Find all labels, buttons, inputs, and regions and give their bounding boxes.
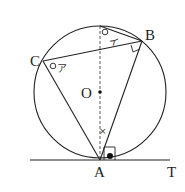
angle-circle-mark-c — [50, 63, 56, 69]
label-o: O — [81, 85, 92, 101]
circle-tangent-diagram: O C B A T ア イ × — [0, 0, 185, 192]
angle-label-a: ア — [57, 63, 67, 74]
segment-ab — [100, 41, 142, 160]
label-a: A — [94, 164, 105, 180]
label-c: C — [30, 53, 40, 69]
segment-ac — [43, 61, 100, 160]
label-t: T — [167, 164, 176, 180]
angle-dot-mark — [107, 153, 113, 159]
segment-db — [100, 26, 142, 41]
label-b: B — [145, 27, 155, 43]
angle-label-i: イ — [107, 35, 120, 48]
angle-circle-mark-top — [102, 29, 108, 35]
angle-label-x: × — [99, 126, 107, 136]
center-dot-o — [98, 90, 102, 94]
segment-cb — [43, 41, 142, 61]
